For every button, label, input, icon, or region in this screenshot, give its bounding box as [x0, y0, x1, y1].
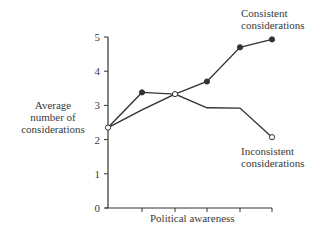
filled-circle-marker [139, 90, 144, 95]
inconsistent-series-line [108, 94, 272, 137]
series-label-consistent-line-1: Consistent [241, 7, 287, 19]
open-circle-marker [172, 92, 177, 97]
series-label-inconsistent-line-1: Inconsistent [241, 145, 294, 157]
y-axis-label-line-3: considerations [10, 123, 96, 135]
filled-circle-marker [237, 45, 242, 50]
y-tick-label: 0 [95, 202, 101, 214]
y-axis-label-line-2: number of [10, 111, 96, 123]
filled-circle-marker [204, 79, 209, 84]
filled-circle-marker [269, 37, 274, 42]
y-axis-label-line-1: Average [10, 99, 96, 111]
y-tick-label: 2 [95, 134, 101, 146]
open-circle-marker [105, 125, 110, 130]
series-label-consistent-line-2: considerations [241, 19, 305, 31]
series-label-inconsistent-line-2: considerations [241, 157, 305, 169]
open-circle-marker [269, 135, 274, 140]
axes: 012345 [95, 31, 273, 214]
y-tick-label: 5 [95, 31, 101, 43]
y-tick-label: 4 [95, 65, 101, 77]
x-axis-label: Political awareness [150, 212, 235, 224]
series-lines [108, 39, 272, 137]
y-tick-label: 1 [95, 168, 101, 180]
y-axis-label: Average number of considerations [10, 99, 96, 135]
